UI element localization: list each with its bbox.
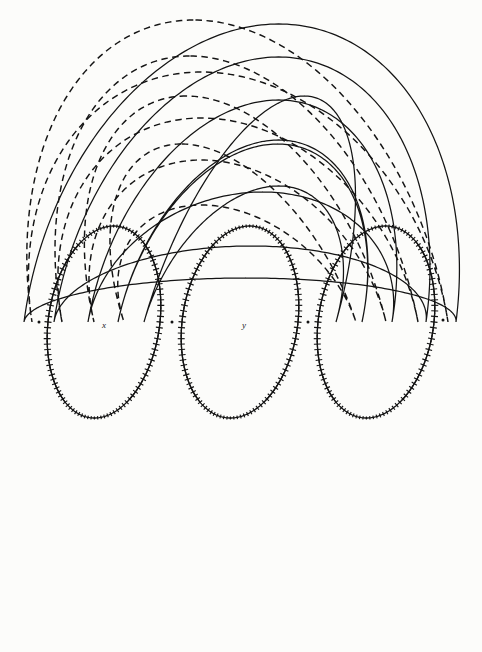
force-arc-3: [88, 100, 397, 322]
separatrix-tick: [100, 227, 101, 231]
separatrix-tick: [392, 225, 393, 229]
node-point: [38, 321, 41, 324]
field-line-figure: x y: [0, 0, 482, 652]
separatrix-tick: [103, 226, 104, 230]
separatrix-tick: [101, 416, 102, 420]
separatrix-tick: [262, 227, 264, 231]
separatrix-tick: [247, 412, 249, 416]
separatrix-layer: [38, 224, 445, 419]
separatrix-tick: [373, 416, 374, 420]
pole-label-y: y: [242, 320, 246, 330]
separatrix-tick: [120, 225, 121, 229]
separatrix-tick: [235, 227, 236, 231]
force-arc-5: [144, 96, 355, 322]
separatrix-tick: [220, 415, 221, 419]
separatrix-tick: [375, 226, 376, 230]
separatrix-tick: [395, 226, 396, 230]
node-point: [171, 321, 174, 324]
separatrix-tick: [356, 415, 357, 419]
separatrix-oval-y-outline: [181, 226, 299, 418]
node-point: [307, 321, 310, 324]
separatrix-tick: [223, 416, 224, 420]
separatrix-tick: [123, 226, 124, 230]
separatrix-tick: [107, 225, 108, 229]
equipot-arc-2: [55, 56, 418, 322]
pole-label-x: x: [102, 320, 106, 330]
separatrix-tick: [240, 415, 241, 419]
separatrix-tick: [259, 226, 260, 230]
separatrix-tick: [81, 414, 83, 418]
separatrix-tick: [376, 415, 377, 419]
separatrix-tick: [352, 414, 354, 418]
force-arc-2: [54, 57, 430, 322]
separatrix-tick: [256, 225, 257, 229]
separatrix-tick: [239, 226, 240, 230]
separatrix-tick: [107, 414, 108, 418]
separatrix-tick: [243, 414, 244, 418]
separatrix-tick: [84, 415, 85, 419]
equipot-arc-4: [110, 144, 356, 322]
separatrix-tick: [242, 225, 243, 229]
separatrix-tick: [237, 416, 238, 420]
separatrix-tick: [378, 225, 379, 229]
separatrix-tick: [379, 414, 380, 418]
separatrix-tick: [88, 416, 89, 420]
node-point: [442, 319, 445, 322]
equipotential-layer: [27, 20, 448, 322]
separatrix-tick: [383, 412, 385, 416]
force-arc-4: [118, 140, 368, 322]
separatrix-tick: [125, 227, 127, 231]
field-line-canvas: [0, 0, 482, 652]
separatrix-tick: [398, 227, 400, 231]
separatrix-tick: [368, 228, 370, 232]
separatrix-tick: [216, 414, 218, 418]
separatrix-tick: [104, 415, 105, 419]
separatrix-tick: [232, 228, 234, 232]
separatrix-tick: [359, 416, 360, 420]
separatrix-tick: [371, 227, 372, 231]
separatrix-oval-y: [178, 224, 303, 419]
